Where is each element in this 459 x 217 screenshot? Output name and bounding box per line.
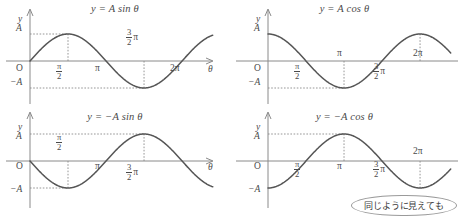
panel-d-th-den: 2 [373,170,379,179]
panel-d-halfpi-num: π [294,160,300,169]
panel-b-tick-halfpi: π2 [294,62,300,81]
panel-a-plot [0,0,230,108]
panel-d-th-num: 3 [373,160,379,169]
panel-c-xlabel: θ [208,162,213,172]
callout-bubble: 同じように見えても [351,195,457,216]
panel-b-amp-pos: A [254,23,260,33]
panel-b-origin: O [254,63,261,73]
panel-b-halfpi-den: 2 [294,72,300,81]
panel-d-tick-twopi: 2π [413,146,423,156]
panel-b-tick-threehalfpi: 32π [373,62,385,81]
panel-a-amp-pos: A [16,23,22,33]
panel-c-tick-threehalfpi: 32π [126,163,138,182]
panel-c-origin: O [16,161,23,171]
panel-a-sin: y = A sin θ y O A −A π2 π 32π 2π θ [0,0,230,108]
panel-a-halfpi-num: π [56,62,62,71]
panel-c-halfpi-den: 2 [56,143,62,152]
panel-c-th-tail: π [133,167,138,177]
trig-graph-grid: y = A sin θ y O A −A π2 π 32π 2π θ y = A… [0,0,459,217]
panel-c-plot [0,108,230,217]
panel-d-amp-neg: −A [248,184,260,194]
panel-c-amp-pos: A [16,131,22,141]
panel-a-th-tail: π [133,32,138,42]
panel-c-th-den: 2 [126,173,132,182]
panel-a-xlabel: θ [208,64,213,74]
panel-b-th-num: 3 [373,62,379,71]
panel-c-th-num: 3 [126,163,132,172]
panel-a-th-den: 2 [126,38,132,47]
panel-d-tick-pi: π [337,161,342,171]
panel-a-tick-twopi: 2π [170,63,180,73]
panel-b-amp-neg: −A [248,77,260,87]
callout-text: 同じように見えても [364,199,443,212]
panel-a-halfpi-den: 2 [56,72,62,81]
panel-d-halfpi-den: 2 [294,170,300,179]
panel-c-halfpi-num: π [56,133,62,142]
panel-c-amp-neg: −A [10,184,22,194]
panel-d-tick-threehalfpi: 32π [373,160,385,179]
panel-b-tick-twopi: 2π [413,48,423,58]
panel-a-tick-pi: π [95,63,100,73]
panel-a-tick-halfpi: π2 [56,62,62,81]
panel-b-th-den: 2 [373,72,379,81]
panel-d-tick-halfpi: π2 [294,160,300,179]
panel-a-th-num: 3 [126,28,132,37]
panel-b-tick-pi: π [337,48,342,58]
panel-c-tick-pi: π [95,161,100,171]
panel-a-tick-threehalfpi: 32π [126,28,138,47]
panel-d-origin: O [254,161,261,171]
panel-b-plot [230,0,459,108]
panel-a-origin: O [16,63,23,73]
panel-d-th-tail: π [380,164,385,174]
panel-a-amp-neg: −A [10,77,22,87]
panel-d-amp-pos: A [254,131,260,141]
panel-b-cos: y = A cos θ y O A −A π2 π 32π 2π [230,0,459,108]
panel-c-neg-sin: y = −A sin θ y O A −A π2 π 32π θ [0,108,230,217]
panel-b-th-tail: π [380,66,385,76]
panel-b-halfpi-num: π [294,62,300,71]
panel-c-tick-halfpi: π2 [56,133,62,152]
